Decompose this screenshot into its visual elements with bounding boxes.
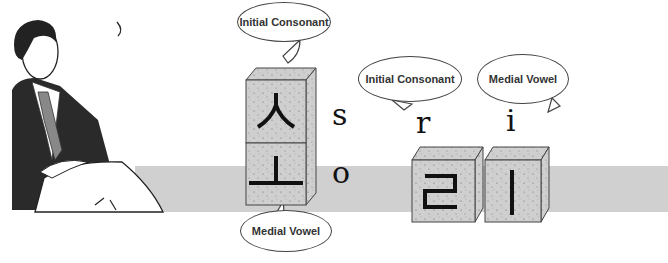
latin-letter-r: r xyxy=(416,108,430,138)
latin-letter-s: s xyxy=(332,100,347,130)
man-illustration xyxy=(12,20,163,212)
hangul-syllable-diagram: Initial Consonant Medial Vowel Initial C… xyxy=(0,0,668,263)
latin-letter-o: o xyxy=(332,158,350,188)
bubble-label: Medial Vowel xyxy=(252,225,320,237)
bubble-tail-4 xyxy=(548,98,560,112)
block-pair-right xyxy=(412,147,549,222)
speech-bubble-medial-vowel-left: Medial Vowel xyxy=(240,210,332,252)
speech-bubble-initial-consonant-left: Initial Consonant xyxy=(237,2,331,42)
bubble-label: Initial Consonant xyxy=(239,16,328,28)
bubble-label: Initial Consonant xyxy=(365,73,454,85)
speech-bubble-medial-vowel-right: Medial Vowel xyxy=(477,54,569,104)
bubble-tail-1 xyxy=(283,40,300,63)
block-stack-left xyxy=(246,68,316,205)
speech-bubble-initial-consonant-right: Initial Consonant xyxy=(358,56,462,102)
latin-letter-i: i xyxy=(506,106,516,136)
bubble-label: Medial Vowel xyxy=(489,73,557,85)
